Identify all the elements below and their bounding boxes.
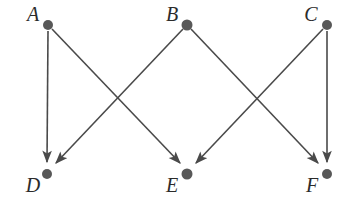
- edge-c-e: [196, 29, 323, 163]
- node-label-f: F: [305, 174, 319, 196]
- node-dot-c[interactable]: [322, 20, 332, 30]
- node-label-c: C: [304, 3, 318, 25]
- edge-b-f: [191, 29, 318, 163]
- edge-b-d: [56, 29, 183, 163]
- edge-a-e: [52, 29, 180, 163]
- edge-group: [47, 29, 327, 163]
- node-dot-f[interactable]: [322, 169, 332, 179]
- node-label-b: B: [166, 3, 178, 25]
- node-group: [42, 20, 332, 180]
- node-dot-d[interactable]: [42, 169, 52, 179]
- node-dot-a[interactable]: [43, 20, 53, 30]
- node-label-d: D: [25, 174, 41, 196]
- graph-diagram: A B C D E F: [0, 0, 351, 199]
- edge-a-d: [47, 31, 48, 162]
- label-group: A B C D E F: [25, 3, 319, 196]
- node-dot-b[interactable]: [182, 20, 193, 31]
- graph-canvas: A B C D E F: [0, 0, 351, 199]
- node-dot-e[interactable]: [182, 169, 193, 180]
- node-label-a: A: [25, 3, 40, 25]
- node-label-e: E: [165, 174, 178, 196]
